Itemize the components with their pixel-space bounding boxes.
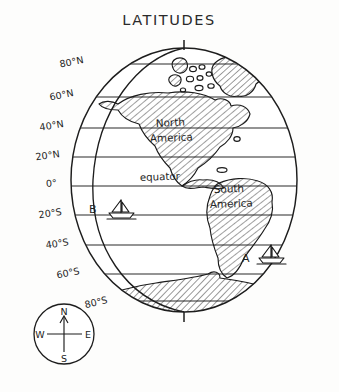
small-island-atlantic bbox=[234, 137, 240, 142]
compass-label-east: E bbox=[85, 329, 91, 340]
compass-rose: N S E W bbox=[34, 304, 94, 364]
boat-b-label: B bbox=[89, 203, 97, 216]
north-america-label-line1: North bbox=[155, 115, 185, 129]
lat-label-20s: 20°S bbox=[38, 206, 62, 220]
page-title: LATITUDES bbox=[122, 12, 216, 28]
lat-label-60n: 60°N bbox=[49, 87, 75, 102]
boat-a-label: A bbox=[242, 252, 250, 265]
compass-label-west: W bbox=[35, 329, 45, 340]
caribbean-island bbox=[217, 168, 227, 173]
equator-label: equator bbox=[140, 171, 181, 183]
latitudes-diagram: LATITUDES bbox=[0, 0, 339, 392]
south-america-label-line2: America bbox=[210, 197, 253, 210]
compass-label-south: S bbox=[61, 353, 67, 364]
lat-label-40s: 40°S bbox=[45, 236, 70, 250]
south-america-label-line1: South bbox=[214, 182, 245, 195]
lat-label-0: 0° bbox=[45, 177, 57, 189]
lat-label-80s: 80°S bbox=[83, 294, 108, 310]
lat-label-60s: 60°S bbox=[56, 265, 81, 280]
lat-label-80n: 80°N bbox=[59, 54, 85, 69]
lat-label-20n: 20°N bbox=[35, 148, 60, 162]
globe bbox=[60, 40, 308, 322]
lat-label-40n: 40°N bbox=[39, 118, 65, 133]
north-america-label-line2: America bbox=[150, 131, 193, 144]
compass-label-north: N bbox=[60, 306, 67, 317]
